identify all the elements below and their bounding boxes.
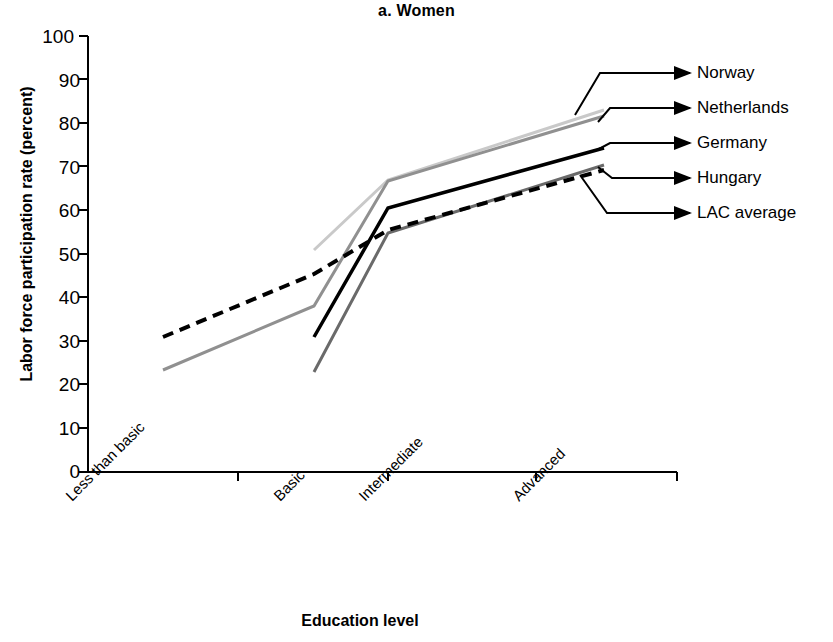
figure-women-labor-force-participation: a. Women Labor force participation rate … <box>0 0 833 642</box>
legend-leader-netherlands <box>598 108 690 122</box>
y-axis-ticks <box>79 36 88 472</box>
axis-lines <box>88 36 677 472</box>
x-axis-ticks <box>238 472 677 481</box>
legend-leader-germany <box>597 143 690 150</box>
legend-leader-hungary <box>598 167 690 178</box>
series-line-germany <box>314 148 604 337</box>
series-line-hungary <box>314 165 604 372</box>
plot-area <box>0 0 833 642</box>
series-line-lac-average <box>163 170 604 337</box>
legend-leader-lac-average <box>580 175 690 213</box>
